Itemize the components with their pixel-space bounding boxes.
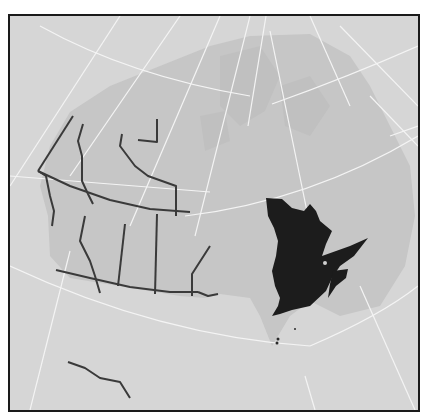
lake-manicouagan (323, 261, 327, 265)
map-frame (8, 14, 420, 412)
canada-map (10, 16, 418, 410)
